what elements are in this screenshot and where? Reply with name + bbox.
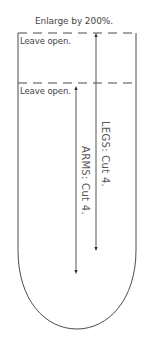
enlarge-instruction: Enlarge by 200%. xyxy=(0,16,148,26)
arms-leave-open-label: Leave open. xyxy=(20,86,71,96)
legs-cut-label: LEGS: Cut 4. xyxy=(99,121,111,187)
pattern-body-outline xyxy=(18,33,136,329)
arms-grainline-arrow-down-icon xyxy=(74,270,77,274)
legs-leave-open-label: Leave open. xyxy=(20,36,71,46)
pattern-outline xyxy=(0,0,148,352)
arms-cut-label: ARMS: Cut 4. xyxy=(79,146,91,215)
legs-grainline-arrow-up-icon xyxy=(94,33,97,37)
legs-grainline-arrow-down-icon xyxy=(94,247,97,251)
arms-grainline-arrow-up-icon xyxy=(74,86,77,90)
